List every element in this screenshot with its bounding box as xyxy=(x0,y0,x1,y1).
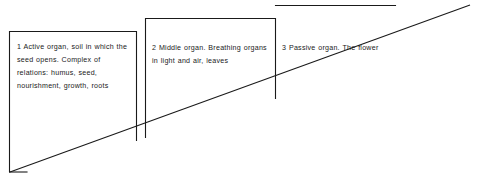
step-2-label: 2 Middle organ. Breathing organs in ligh… xyxy=(152,42,270,68)
stepped-organ-diagram: 1 Active organ, soil in which the seed o… xyxy=(0,0,495,183)
step-2-outline xyxy=(146,19,276,138)
step-1-label: 1 Active organ, soil in which the seed o… xyxy=(17,41,129,93)
step-3-label: 3 Passive organ. The flower xyxy=(282,42,390,55)
